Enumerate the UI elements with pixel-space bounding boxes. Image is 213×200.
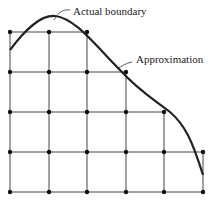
- approximation-label: Approximation: [136, 53, 203, 65]
- actual-boundary-curve: [10, 16, 203, 175]
- approx-leader-line: [117, 62, 132, 69]
- boundary-diagram: [0, 0, 213, 200]
- actual-boundary-label: Actual boundary: [73, 5, 147, 17]
